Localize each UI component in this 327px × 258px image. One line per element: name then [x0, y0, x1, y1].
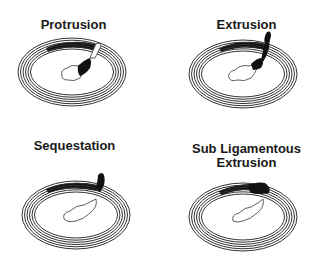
panel-sub-ligamentous-extrusion: Sub Ligamentous Extrusion: [163, 129, 326, 258]
panel-extrusion: Extrusion: [163, 0, 326, 129]
panel-sequestation: Sequestation: [0, 129, 163, 258]
disc-sub-ligamentous-extrusion-illustration: [163, 129, 326, 258]
panel-protrusion: Protrusion: [0, 0, 163, 129]
disc-protrusion-illustration: [0, 0, 163, 129]
disc-sequestation-illustration: [0, 129, 163, 258]
disc-extrusion-illustration: [163, 0, 326, 129]
